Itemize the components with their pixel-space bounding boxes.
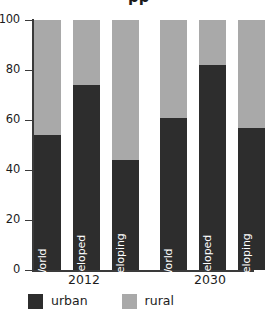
bar-segment-rural [199, 20, 226, 65]
bar-segment-rural [160, 20, 187, 118]
y-axis-label-100: 100 [0, 14, 20, 26]
x-axis-group-label-2012: 2012 [49, 274, 119, 287]
bar-2030-developed[interactable]: Developed [199, 20, 226, 270]
plot-area: World Developed Developing World Develop… [33, 20, 254, 270]
bar-label-world: World [163, 248, 174, 279]
legend-label-urban: urban [51, 295, 88, 308]
bar-segment-rural [73, 20, 100, 85]
y-axis-label-40: 40 [0, 164, 20, 176]
y-axis-tick-40 [25, 170, 33, 172]
legend-item-rural[interactable]: rural [122, 294, 174, 309]
y-axis-tick-0 [25, 270, 33, 272]
bar-2012-developing[interactable]: Developing [112, 20, 139, 270]
y-axis-tick-80 [25, 70, 33, 72]
legend-item-urban[interactable]: urban [28, 294, 88, 309]
legend-swatch-rural-icon [122, 294, 137, 309]
stacked-bar-chart: pp 100 80 60 40 20 0 World Developed Dev… [0, 0, 266, 316]
bar-segment-rural [238, 20, 265, 128]
y-axis-tick-20 [25, 220, 33, 222]
bar-2030-developing[interactable]: Developing [238, 20, 265, 270]
y-axis-tick-100 [25, 20, 33, 22]
chart-title-text: pp [128, 0, 149, 6]
legend-label-rural: rural [145, 295, 174, 308]
x-axis-group-label-2030: 2030 [175, 274, 245, 287]
chart-legend: urban rural [28, 294, 174, 309]
legend-swatch-urban-icon [28, 294, 43, 309]
bar-2030-world[interactable]: World [160, 20, 187, 270]
bar-segment-urban [160, 118, 187, 271]
bar-2012-world[interactable]: World [34, 20, 61, 270]
bar-label-world: World [37, 248, 48, 279]
y-axis-label-80: 80 [0, 64, 20, 76]
y-axis-tick-60 [25, 120, 33, 122]
y-axis-label-60: 60 [0, 114, 20, 126]
bar-2012-developed[interactable]: Developed [73, 20, 100, 270]
bar-segment-rural [34, 20, 61, 135]
bar-segment-rural [112, 20, 139, 160]
chart-title-cropped: pp [0, 0, 266, 7]
y-axis-label-20: 20 [0, 214, 20, 226]
y-axis-label-0: 0 [0, 264, 20, 276]
